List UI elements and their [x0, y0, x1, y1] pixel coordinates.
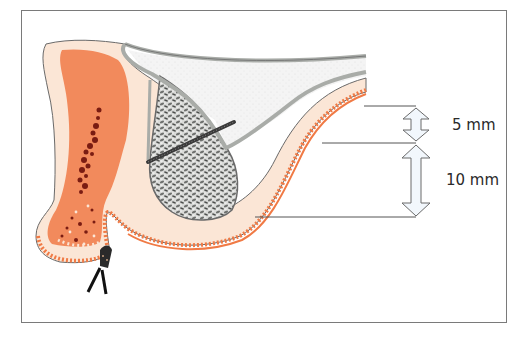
measurement-label-5mm: 5 mm	[452, 116, 496, 134]
sinus-lift-diagram	[0, 0, 528, 338]
double-arrow-large	[402, 145, 430, 216]
measurement-label-10mm: 10 mm	[446, 171, 499, 189]
double-arrow-small	[403, 108, 429, 141]
